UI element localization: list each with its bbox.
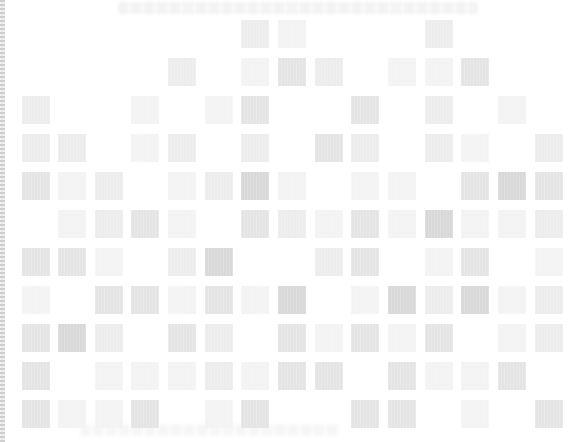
grid-tile[interactable] [205, 286, 233, 314]
grid-tile[interactable] [241, 20, 269, 48]
grid-tile[interactable] [131, 96, 159, 124]
grid-tile[interactable] [95, 210, 123, 238]
grid-tile[interactable] [58, 134, 86, 162]
grid-tile[interactable] [58, 400, 86, 428]
grid-tile[interactable] [168, 324, 196, 352]
grid-tile[interactable] [425, 248, 453, 276]
grid-tile[interactable] [22, 400, 50, 428]
grid-tile[interactable] [535, 400, 563, 428]
grid-tile[interactable] [278, 172, 306, 200]
grid-tile[interactable] [498, 210, 526, 238]
grid-tile[interactable] [535, 248, 563, 276]
grid-tile[interactable] [22, 324, 50, 352]
grid-tile[interactable] [58, 210, 86, 238]
grid-tile[interactable] [425, 96, 453, 124]
grid-tile[interactable] [315, 362, 343, 390]
grid-tile[interactable] [131, 134, 159, 162]
grid-tile[interactable] [498, 96, 526, 124]
grid-tile[interactable] [535, 324, 563, 352]
grid-tile[interactable] [131, 362, 159, 390]
grid-tile[interactable] [461, 172, 489, 200]
grid-tile[interactable] [278, 324, 306, 352]
grid-tile[interactable] [241, 96, 269, 124]
grid-tile[interactable] [498, 286, 526, 314]
grid-tile[interactable] [241, 362, 269, 390]
grid-tile[interactable] [535, 172, 563, 200]
grid-tile[interactable] [95, 400, 123, 428]
grid-tile[interactable] [461, 400, 489, 428]
grid-tile[interactable] [95, 248, 123, 276]
grid-tile[interactable] [535, 134, 563, 162]
grid-tile[interactable] [22, 286, 50, 314]
grid-tile[interactable] [315, 210, 343, 238]
grid-tile[interactable] [22, 248, 50, 276]
grid-tile[interactable] [425, 20, 453, 48]
grid-tile[interactable] [388, 172, 416, 200]
grid-tile[interactable] [205, 324, 233, 352]
grid-tile[interactable] [461, 286, 489, 314]
grid-tile[interactable] [205, 96, 233, 124]
grid-tile[interactable] [278, 20, 306, 48]
grid-tile[interactable] [95, 286, 123, 314]
grid-tile[interactable] [168, 286, 196, 314]
grid-tile[interactable] [278, 58, 306, 86]
grid-tile[interactable] [388, 362, 416, 390]
grid-tile[interactable] [22, 96, 50, 124]
grid-tile[interactable] [351, 324, 379, 352]
grid-tile[interactable] [425, 324, 453, 352]
grid-tile[interactable] [241, 286, 269, 314]
grid-tile[interactable] [278, 210, 306, 238]
grid-tile[interactable] [461, 362, 489, 390]
grid-tile[interactable] [168, 134, 196, 162]
grid-tile[interactable] [168, 248, 196, 276]
grid-tile[interactable] [425, 58, 453, 86]
grid-tile[interactable] [425, 210, 453, 238]
grid-tile[interactable] [425, 362, 453, 390]
grid-tile[interactable] [95, 172, 123, 200]
grid-tile[interactable] [388, 58, 416, 86]
grid-tile[interactable] [388, 210, 416, 238]
grid-tile[interactable] [131, 400, 159, 428]
grid-tile[interactable] [58, 248, 86, 276]
grid-tile[interactable] [95, 324, 123, 352]
grid-tile[interactable] [315, 248, 343, 276]
grid-tile[interactable] [22, 172, 50, 200]
grid-tile[interactable] [315, 324, 343, 352]
grid-tile[interactable] [315, 58, 343, 86]
grid-tile[interactable] [388, 324, 416, 352]
grid-tile[interactable] [205, 362, 233, 390]
grid-tile[interactable] [241, 210, 269, 238]
grid-tile[interactable] [241, 172, 269, 200]
grid-tile[interactable] [131, 210, 159, 238]
grid-tile[interactable] [535, 210, 563, 238]
grid-tile[interactable] [278, 286, 306, 314]
grid-tile[interactable] [278, 362, 306, 390]
grid-tile[interactable] [351, 286, 379, 314]
grid-tile[interactable] [58, 324, 86, 352]
grid-tile[interactable] [95, 362, 123, 390]
grid-tile[interactable] [205, 172, 233, 200]
grid-tile[interactable] [498, 324, 526, 352]
grid-tile[interactable] [461, 210, 489, 238]
grid-tile[interactable] [315, 134, 343, 162]
grid-tile[interactable] [388, 286, 416, 314]
grid-tile[interactable] [351, 248, 379, 276]
grid-tile[interactable] [241, 58, 269, 86]
grid-tile[interactable] [425, 134, 453, 162]
grid-tile[interactable] [58, 172, 86, 200]
grid-tile[interactable] [461, 248, 489, 276]
grid-tile[interactable] [168, 172, 196, 200]
grid-tile[interactable] [131, 286, 159, 314]
grid-tile[interactable] [425, 286, 453, 314]
grid-tile[interactable] [168, 58, 196, 86]
grid-tile[interactable] [351, 172, 379, 200]
grid-tile[interactable] [461, 134, 489, 162]
grid-tile[interactable] [351, 134, 379, 162]
grid-tile[interactable] [461, 58, 489, 86]
grid-tile[interactable] [351, 400, 379, 428]
grid-tile[interactable] [205, 400, 233, 428]
grid-tile[interactable] [168, 210, 196, 238]
grid-tile[interactable] [498, 172, 526, 200]
grid-tile[interactable] [205, 248, 233, 276]
grid-tile[interactable] [241, 400, 269, 428]
